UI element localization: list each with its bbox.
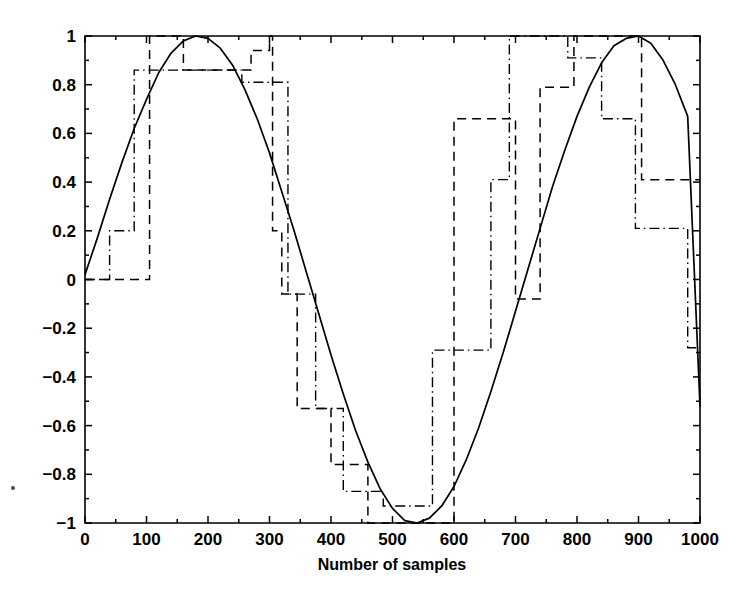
x-tick-label: 300 [255,530,283,549]
series-path-1 [85,36,700,523]
y-tick-label: −1 [57,514,76,533]
series-group [85,36,700,523]
y-tick-label: 0 [67,271,76,290]
x-tick-label: 800 [563,530,591,549]
y-tick-label: 0.6 [52,124,76,143]
x-tick-label: 900 [624,530,652,549]
x-tick-label: 1000 [681,530,719,549]
y-tick-label: −0.2 [42,319,76,338]
series-path-3 [85,36,700,506]
chart-plot-area: 01002003004005006007008009001000−1−0.8−0… [0,0,748,599]
x-tick-label: 500 [378,530,406,549]
x-tick-label: 700 [501,530,529,549]
axis-group [85,36,700,523]
x-tick-label: 0 [80,530,89,549]
y-tick-label: 0.4 [52,173,76,192]
x-tick-label: 400 [317,530,345,549]
page-speck [11,486,15,490]
y-tick-label: −0.4 [42,368,76,387]
y-tick-label: 1 [67,27,76,46]
x-tick-label: 200 [194,530,222,549]
chart-figure: 01002003004005006007008009001000−1−0.8−0… [0,0,748,599]
x-axis-title: Number of samples [318,556,467,573]
series-path-2 [85,36,700,523]
axis-box [85,36,700,523]
x-tick-label: 600 [440,530,468,549]
y-tick-label: −0.8 [42,465,76,484]
y-tick-label: 0.2 [52,222,76,241]
y-tick-label: 0.8 [52,76,76,95]
y-tick-label: −0.6 [42,417,76,436]
x-tick-label: 100 [132,530,160,549]
